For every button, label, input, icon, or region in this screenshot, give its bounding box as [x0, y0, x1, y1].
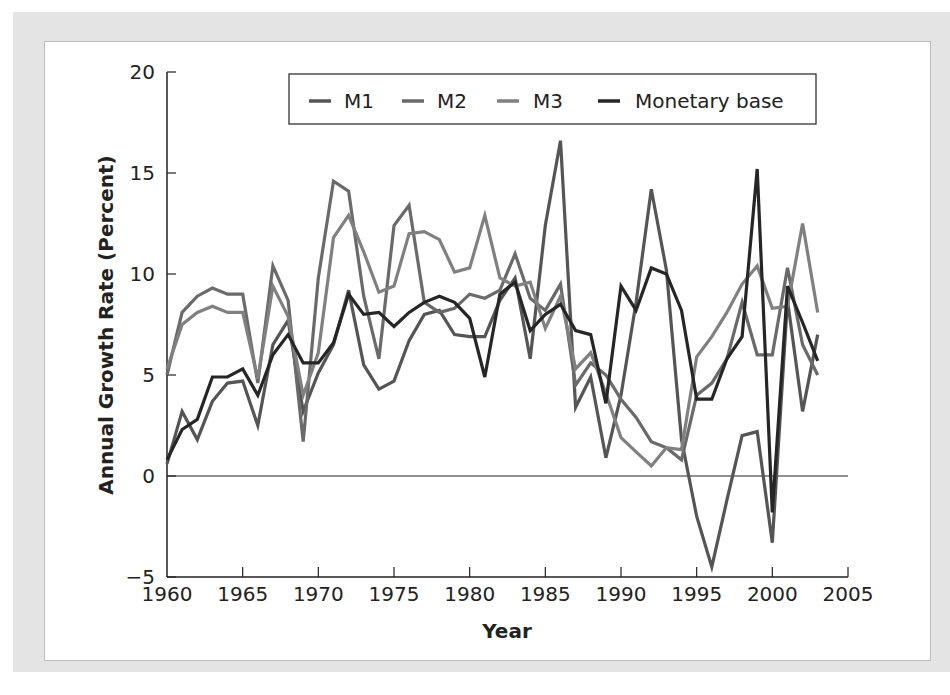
- x-tick-label: 1995: [671, 582, 722, 606]
- y-tick-label: 5: [142, 363, 155, 387]
- legend-label: M2: [437, 89, 467, 113]
- y-axis-title: Annual Growth Rate (Percent): [94, 155, 118, 494]
- x-tick-label: 1990: [596, 582, 647, 606]
- x-axis-title: Year: [481, 619, 532, 643]
- y-tick-label: 20: [130, 60, 155, 84]
- legend-label: M1: [344, 89, 374, 113]
- x-tick-label: 1965: [217, 582, 268, 606]
- legend-label: Monetary base: [635, 89, 784, 113]
- x-tick-label: 2000: [747, 582, 798, 606]
- legend-label: M3: [533, 89, 563, 113]
- x-tick-label: 1980: [444, 582, 495, 606]
- series-line-m1: [167, 141, 818, 567]
- x-tick-label: 2005: [823, 582, 874, 606]
- line-chart: −505101520196019651970197519801985199019…: [0, 0, 950, 695]
- axes: −505101520196019651970197519801985199019…: [126, 60, 874, 606]
- x-tick-label: 1985: [520, 582, 571, 606]
- x-tick-label: 1975: [369, 582, 420, 606]
- series-lines: [167, 141, 818, 567]
- x-tick-label: 1960: [142, 582, 193, 606]
- y-tick-label: 15: [130, 161, 155, 185]
- x-tick-label: 1970: [293, 582, 344, 606]
- y-tick-label: 0: [142, 464, 155, 488]
- legend: M1M2M3Monetary base: [289, 74, 816, 124]
- y-tick-label: 10: [130, 262, 155, 286]
